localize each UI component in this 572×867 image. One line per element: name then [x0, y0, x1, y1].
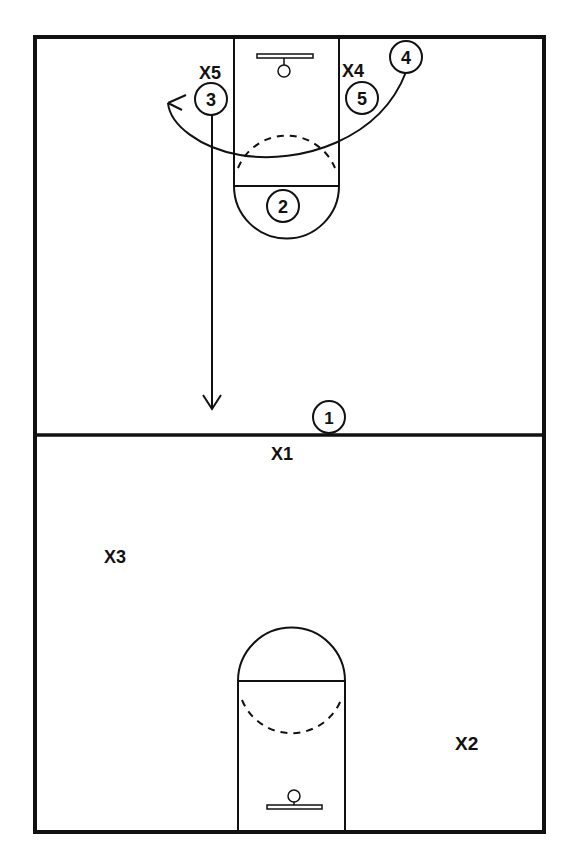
svg-text:5: 5 — [357, 89, 367, 109]
top-lane — [234, 37, 339, 186]
svg-text:4: 4 — [401, 48, 411, 68]
top-free-throw-arc-dashed — [238, 136, 335, 168]
svg-text:2: 2 — [278, 197, 288, 217]
top-basket-icon — [278, 65, 290, 77]
bottom-backboard — [267, 805, 322, 809]
cut-path-4-arrowhead-icon — [168, 95, 186, 110]
svg-text:1: 1 — [324, 409, 333, 428]
bottom-basket-icon — [288, 790, 300, 802]
defense-player-x1: X1 — [271, 444, 293, 464]
offense-player-4: 4 — [390, 41, 422, 73]
defense-player-x5: X5 — [199, 63, 221, 83]
play-diagram: 1 2 3 4 5 X5 X4 X1 X3 X2 — [0, 0, 572, 867]
defense-player-x3: X3 — [104, 547, 126, 567]
bottom-free-throw-arc-dashed — [242, 700, 341, 733]
top-backboard — [257, 54, 313, 58]
svg-text:3: 3 — [206, 90, 216, 110]
offense-player-1: 1 — [313, 401, 345, 433]
defense-player-x2: X2 — [455, 733, 478, 754]
defense-player-x4: X4 — [342, 61, 364, 81]
offense-player-5: 5 — [346, 82, 378, 114]
offense-player-2: 2 — [267, 190, 299, 222]
bottom-free-throw-arc-solid — [238, 628, 345, 682]
offense-player-3: 3 — [195, 83, 227, 115]
bottom-half-court — [238, 628, 345, 833]
